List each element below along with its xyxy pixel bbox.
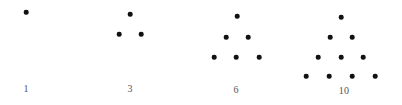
dot [257,55,262,60]
dot [350,35,355,40]
group-label-1: 1 [23,83,28,94]
group-label-6: 6 [233,84,238,95]
dot [212,55,217,60]
dot [117,32,122,37]
dot [234,55,239,60]
group-label-3: 3 [127,83,132,94]
dot-group-10: 10 [0,0,402,105]
dot [339,15,344,20]
dot [350,74,355,79]
dot-group-3: 3 [0,0,402,105]
dot [316,55,321,60]
group-label-10: 10 [339,85,349,96]
dot-group-1: 1 [0,0,402,105]
dot [139,32,144,37]
dot [361,55,366,60]
dot [246,35,251,40]
dot [128,12,133,17]
triangular-numbers-figure: 13610 [0,0,402,105]
dot [24,10,29,15]
dot [224,35,229,40]
dot-group-6: 6 [0,0,402,105]
dot [339,55,344,60]
dot [235,14,240,19]
dot [328,35,333,40]
dot [327,74,332,79]
dot [373,74,378,79]
dot [304,74,309,79]
